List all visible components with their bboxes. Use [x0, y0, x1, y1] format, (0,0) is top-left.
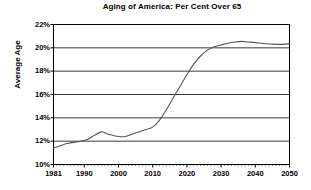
chart-container: Aging of America: Per Cent Over 65 Avera…	[0, 0, 311, 190]
axis-ticks	[51, 25, 290, 168]
grid-lines	[54, 48, 290, 141]
plot-area	[0, 0, 311, 190]
